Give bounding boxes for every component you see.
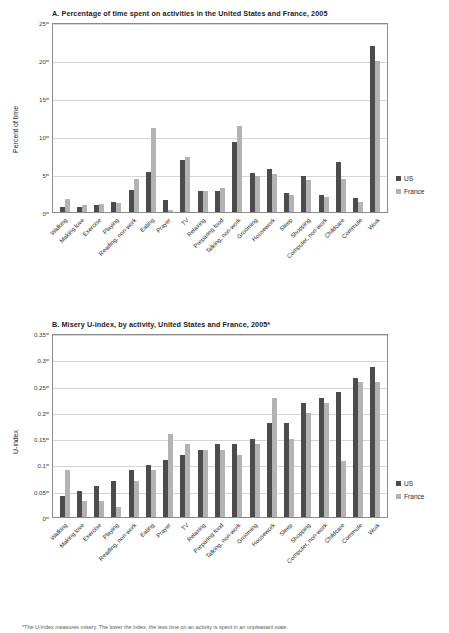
y-tick-mark	[46, 439, 49, 440]
bar-france	[289, 195, 294, 212]
x-tick-label-cell: Prayer	[159, 520, 176, 530]
y-tick-mark	[46, 99, 49, 100]
bar-group	[263, 335, 280, 517]
bar-group	[194, 24, 211, 212]
y-tick-label: 0.05	[34, 488, 46, 495]
y-tick-label: 20	[39, 58, 46, 65]
x-tick-label-cell: TV	[177, 520, 194, 530]
x-tick-label-cell: Work	[368, 215, 385, 225]
legend-swatch-france-icon	[396, 189, 401, 194]
y-tick-label: 0.35	[34, 331, 46, 338]
x-tick-label-cell: TV	[177, 215, 194, 225]
bar-group	[332, 24, 349, 212]
y-tick-label: 10	[39, 134, 46, 141]
bar-france	[237, 126, 242, 212]
x-tick-label-cell: Talking, non-work	[229, 215, 246, 225]
x-tick-label-cell: Preparing food	[211, 215, 228, 225]
legend-item-france: France	[396, 188, 425, 195]
bar-france	[220, 188, 225, 212]
y-tick-mark	[46, 334, 49, 335]
x-tick-label-cell: Childcare	[333, 215, 350, 225]
y-tick-label: 0.2	[37, 409, 46, 416]
bar-group	[229, 24, 246, 212]
y-tick-mark	[46, 23, 49, 24]
x-tick-label: Sleep	[279, 522, 294, 537]
chart-b-legend: US France	[396, 480, 425, 506]
x-tick-label-cell: Exercise	[90, 520, 107, 530]
bar-france	[151, 128, 156, 212]
legend-item-us: US	[396, 480, 425, 487]
x-tick-label-cell: Housework	[264, 215, 281, 225]
chart-b-bars	[53, 335, 387, 517]
x-tick-label-cell: Shopping	[298, 215, 315, 225]
bar-france	[375, 61, 380, 212]
x-tick-label-cell: Sleep	[281, 520, 298, 530]
bar-group	[350, 24, 367, 212]
x-tick-label: Work	[367, 217, 381, 231]
bar-group	[298, 335, 315, 517]
x-tick-label: Sleep	[279, 217, 294, 232]
bar-group	[229, 335, 246, 517]
bar-france	[324, 403, 329, 517]
legend-item-us: US	[396, 175, 425, 182]
x-tick-label: TV	[180, 217, 190, 227]
bar-france	[134, 179, 139, 212]
chart-a-plot-area	[52, 23, 388, 213]
bar-france	[116, 507, 121, 518]
bar-france	[358, 382, 363, 517]
chart-b-y-axis: 00.050.10.150.20.250.30.35	[0, 334, 46, 518]
bar-group	[142, 335, 159, 517]
x-tick-label-cell: Prayer	[159, 215, 176, 225]
bar-group	[246, 335, 263, 517]
bar-group	[280, 335, 297, 517]
x-tick-label-cell: Eating	[142, 520, 159, 530]
chart-b-y-axis-label: U-index	[12, 430, 19, 454]
x-tick-label-cell: Commute	[350, 520, 367, 530]
bar-france	[99, 204, 104, 212]
x-tick-label-cell: Relaxing	[194, 520, 211, 530]
bar-france	[134, 481, 139, 517]
x-tick-label-cell: Grooming	[246, 215, 263, 225]
bar-group	[367, 335, 384, 517]
bar-france	[65, 199, 70, 212]
x-tick-label-cell: Sleep	[281, 215, 298, 225]
bar-france	[375, 382, 380, 517]
x-tick-label-cell: Computer, non-work	[316, 520, 333, 530]
x-tick-label-cell: Exercise	[90, 215, 107, 225]
bar-france	[272, 174, 277, 212]
bar-france	[168, 210, 173, 212]
x-tick-label-cell: Housework	[264, 520, 281, 530]
legend-swatch-france-icon	[396, 494, 401, 499]
x-tick-label-cell: Making love	[72, 215, 89, 225]
bar-france	[306, 180, 311, 212]
bar-group	[160, 24, 177, 212]
bar-france	[82, 205, 87, 212]
bar-group	[367, 24, 384, 212]
figure-panel-a: A. Percentage of time spent on activitie…	[0, 0, 449, 310]
bar-group	[108, 335, 125, 517]
legend-label-france: France	[404, 493, 425, 500]
y-tick-mark	[46, 213, 49, 214]
x-tick-label-cell: Reading, non-work	[125, 215, 142, 225]
y-tick-label: 0.1	[37, 462, 46, 469]
chart-a-legend: US France	[396, 175, 425, 201]
x-tick-label-cell: Work	[368, 520, 385, 530]
bar-group	[315, 335, 332, 517]
legend-swatch-us-icon	[396, 481, 401, 486]
bar-group	[73, 335, 90, 517]
x-tick-label-cell: Playing	[107, 520, 124, 530]
y-tick-mark	[46, 412, 49, 413]
bar-group	[177, 335, 194, 517]
chart-b-plot-area	[52, 334, 388, 518]
x-tick-label-cell: Computer, non-work	[316, 215, 333, 225]
bar-france	[272, 398, 277, 517]
x-tick-label-cell: Walking	[55, 520, 72, 530]
bar-group	[142, 24, 159, 212]
bar-france	[185, 444, 190, 517]
x-tick-label: TV	[180, 522, 190, 532]
y-tick-mark	[46, 175, 49, 176]
bar-france	[237, 455, 242, 517]
y-tick-mark	[46, 465, 49, 466]
x-tick-label-cell: Reading, non-work	[125, 520, 142, 530]
x-tick-label-cell: Talking, non-work	[229, 520, 246, 530]
